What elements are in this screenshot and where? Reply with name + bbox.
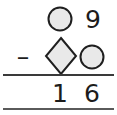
difference-tens-label: 1 (52, 81, 68, 106)
digit-nine-label: 9 (85, 7, 101, 32)
minus-operator-icon: – (10, 43, 36, 69)
difference-ones-digit: 6 (79, 80, 105, 106)
difference-ones-label: 6 (84, 81, 100, 106)
shape-subtraction-puzzle: 9 – 1 6 (0, 0, 117, 115)
subtraction-bar (3, 74, 114, 76)
subtrahend-ones-circle-shape[interactable] (79, 44, 105, 70)
circle-shape-icon (47, 6, 73, 32)
diamond-shape-icon (44, 36, 78, 76)
subtrahend-tens-diamond-shape[interactable] (44, 36, 78, 76)
difference-tens-digit: 1 (47, 80, 73, 106)
minus-operator-label: – (17, 44, 30, 69)
answer-underline-bar (3, 108, 114, 110)
circle-shape-icon (79, 44, 105, 70)
minuend-ones-digit: 9 (80, 6, 106, 32)
minuend-tens-circle-shape[interactable] (47, 6, 73, 32)
